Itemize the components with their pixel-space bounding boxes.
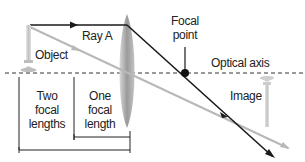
one-focal-line1: One <box>76 89 124 103</box>
arrow-icon <box>280 142 290 149</box>
two-focal-line3: lengths <box>21 117 73 131</box>
focal-point-dot <box>181 69 189 77</box>
two-focal-line2: focal <box>21 103 73 117</box>
image-label: Image <box>230 89 262 103</box>
one-focal-line2: focal <box>76 103 124 117</box>
one-focal-length-label: One focal length <box>76 89 124 131</box>
focal-point-label: Focal point <box>164 14 206 42</box>
focal-point-label-line1: Focal <box>164 14 206 28</box>
focal-point-label-line2: point <box>164 28 206 42</box>
optical-axis-label: Optical axis <box>211 56 269 70</box>
image-candle-icon <box>260 76 274 127</box>
two-focal-line1: Two <box>21 89 73 103</box>
one-focal-line3: length <box>76 117 124 131</box>
ray-a-label: Ray A <box>82 29 113 43</box>
object-label: Object <box>35 48 68 62</box>
arrow-icon <box>70 22 78 29</box>
two-focal-lengths-label: Two focal lengths <box>21 89 73 131</box>
lens-diagram <box>0 0 305 162</box>
